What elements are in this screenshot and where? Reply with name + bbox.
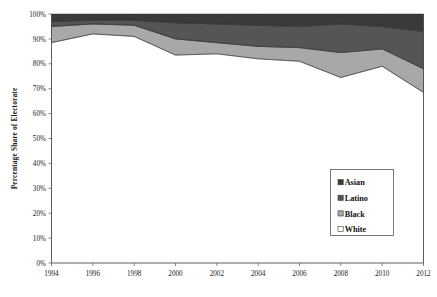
legend-swatch-white — [338, 226, 343, 231]
y-tick-label: 10% — [33, 235, 46, 243]
legend-swatch-latino — [338, 195, 343, 200]
x-tick-label: 1996 — [86, 270, 101, 278]
y-tick-label: 70% — [33, 85, 46, 93]
legend-swatch-black — [338, 211, 343, 216]
x-tick-label: 1994 — [44, 270, 59, 278]
y-tick-label: 90% — [33, 36, 46, 44]
legend-label-latino: Latino — [345, 194, 368, 203]
x-tick-label: 2008 — [334, 270, 349, 278]
x-tick-label: 1998 — [127, 270, 142, 278]
y-axis-title: Percentage Share of Electorate — [10, 87, 19, 189]
y-tick-label: 80% — [33, 60, 46, 68]
x-tick-label: 2010 — [375, 270, 390, 278]
legend-label-black: Black — [345, 210, 365, 219]
y-tick-label: 100% — [29, 11, 46, 19]
legend-label-white: White — [345, 225, 367, 234]
y-tick-label: 50% — [33, 135, 46, 143]
y-tick-label: 60% — [33, 110, 46, 118]
x-tick-label: 2012 — [416, 270, 431, 278]
x-tick-label: 2000 — [168, 270, 183, 278]
y-tick-label: 30% — [33, 185, 46, 193]
legend-swatch-asian — [338, 180, 343, 185]
y-tick-label: 0% — [36, 260, 46, 268]
y-tick-label: 20% — [33, 210, 46, 218]
x-tick-label: 2002 — [210, 270, 225, 278]
chart-canvas: 0%10%20%30%40%50%60%70%80%90%100%1994199… — [0, 0, 437, 297]
legend-label-asian: Asian — [345, 178, 365, 187]
stacked-area-chart: 0%10%20%30%40%50%60%70%80%90%100%1994199… — [0, 0, 437, 297]
x-tick-label: 2004 — [251, 270, 266, 278]
x-tick-label: 2006 — [292, 270, 307, 278]
y-tick-label: 40% — [33, 160, 46, 168]
